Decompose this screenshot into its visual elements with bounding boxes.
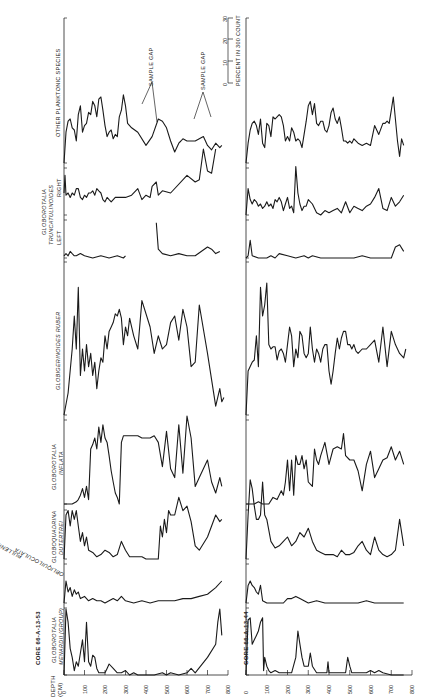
other-name: OTHER PLANKTONIC SPECIES [55,49,61,137]
species-label-inflata-species: INFLATA [58,451,64,475]
species-label-truncatulinoides-species: TRUNCATULINOIDES [48,185,54,245]
trunc-left: LEFT [56,230,62,245]
scale-title: PERCENT IN 300 COUNT [235,15,241,86]
sample-gap-label-2: SAMPLE GAP [200,52,206,90]
trunc-species: TRUNCATULINOIDES [48,185,54,245]
depth-tick-400: 400 [143,685,149,694]
depth-tick-300: 300 [305,685,311,694]
species-label-other: OTHER PLANKTONIC SPECIES [55,49,61,137]
depth-tick-500: 500 [347,685,353,694]
trunc-right-label: RIGHT [56,178,62,197]
sample-gap-2: SAMPLE GAP [200,52,206,90]
inflata-species: INFLATA [58,451,64,475]
depth-tick-0: 0 [243,691,249,694]
trunc-right: RIGHT [56,178,62,197]
depth-tick-600: 600 [184,685,190,694]
species-label-menardii-species: MENARDII (GROUP) [58,608,64,665]
ruber-name: GLOBIGERINOIDES RUBER [55,312,61,390]
foraminifera-depth-chart [0,0,424,697]
depth-tick-500: 500 [164,685,170,694]
core-left-title: CORE 66-A-13-53 [35,611,41,665]
depth-tick-100: 100 [82,685,88,694]
scale-tick-label: 0 [222,83,228,86]
trunc-genus: GLOBOROTALIA [41,189,47,235]
depth-tick-300: 300 [123,685,129,694]
chart-axes [64,18,412,675]
species-curves [64,95,406,675]
species-label-dutertrei-genus: GLOBOQUADRINA [51,511,57,564]
sample-gap-label-1: SAMPLE GAP [148,48,154,86]
depth-unit-label: (CM) [57,682,63,697]
scale-tick-label: 30 [222,16,228,22]
scale-tick-0: 0 [222,83,228,86]
scale-bar-title: PERCENT IN 300 COUNT [235,15,241,86]
dutertrei-species: DUTERTREI [58,521,64,555]
scale-tick-label: 10 [222,60,228,66]
depth-unit: (CM) [57,682,63,697]
depth-axis-label: DEPTH [50,675,56,697]
species-label-dutertrei-species: DUTERTREI [58,521,64,555]
species-label-ruber: GLOBIGERINOIDES RUBER [55,312,61,390]
depth-tick-800: 800 [409,685,415,694]
depth-tick-0: 0 [61,691,67,694]
species-label-menardii-genus: GLOBOROTALIA [51,617,57,663]
depth-tick-800: 800 [225,685,231,694]
depth-tick-700: 700 [388,685,394,694]
dutertrei-genus: GLOBOQUADRINA [51,511,57,564]
depth-tick-200: 200 [102,685,108,694]
species-label-inflata-genus: GLOBOROTALIA [51,444,57,490]
species-label-truncatulinoides-genus: GLOBOROTALIA [41,189,47,235]
scale-tick-20: 20 [222,38,228,44]
scale-tick-10: 10 [222,60,228,66]
depth-tick-700: 700 [205,685,211,694]
core-right-title: CORE 66-A-13-44 [243,611,249,665]
menardii-species: MENARDII (GROUP) [58,608,64,665]
depth-tick-600: 600 [368,685,374,694]
depth-tick-100: 100 [264,685,270,694]
depth-tick-200: 200 [285,685,291,694]
menardii-genus: GLOBOROTALIA [51,617,57,663]
trunc-left-label: LEFT [56,230,62,245]
percent-scale-bar [228,18,233,83]
depth-label: DEPTH [50,675,56,697]
scale-tick-30: 30 [222,16,228,22]
core-left-label: CORE 66-A-13-53 [35,611,41,665]
inflata-genus: GLOBOROTALIA [51,444,57,490]
scale-tick-label: 20 [222,38,228,44]
core-right-label: CORE 66-A-13-44 [243,611,249,665]
depth-tick-400: 400 [326,685,332,694]
sample-gap-1: SAMPLE GAP [148,48,154,86]
